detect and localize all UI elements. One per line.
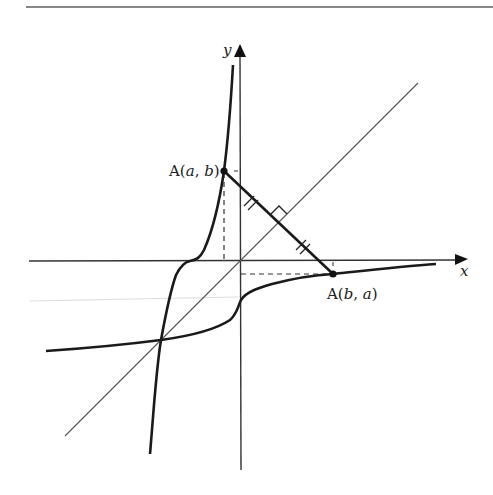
label-point-b-a: A(b, a) — [326, 285, 378, 303]
label-point-a-b: A(a, b) — [168, 162, 220, 180]
y-axis — [240, 55, 241, 470]
point-b-a — [329, 270, 336, 277]
function-curve — [150, 65, 233, 454]
equal-length-ticks-upper — [244, 196, 258, 210]
mirror-line-y-equals-x — [65, 83, 418, 436]
x-axis — [29, 260, 458, 261]
x-axis-label: x — [460, 262, 469, 280]
point-a-b — [220, 167, 227, 174]
faint-guide-line — [30, 297, 238, 301]
right-angle-marker — [271, 206, 287, 214]
y-axis-label: y — [222, 41, 232, 59]
inverse-function-diagram: x y A(a, b) A(b, a) — [0, 0, 493, 495]
y-axis-arrow-icon — [234, 44, 246, 57]
